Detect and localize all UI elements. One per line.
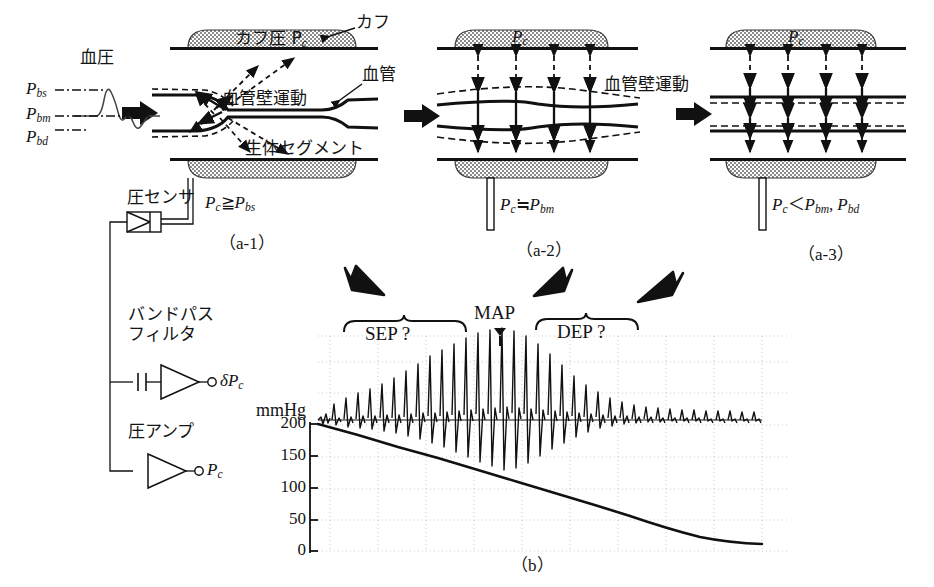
chart-b: [310, 328, 790, 553]
cuff-pressure-label-a3: Pc: [788, 28, 804, 47]
inflow-arrow-a1: [122, 101, 158, 125]
sensor-tube-a2: [487, 178, 494, 230]
callout-arrow-right: [638, 272, 683, 302]
vessel-upper-wall-a2: [437, 101, 638, 107]
vessel-wall-motion-label-a2: 血管壁運動: [604, 76, 689, 93]
ytick-label-100: 100: [268, 478, 306, 495]
callout-arrows: [345, 266, 683, 302]
cuff-pressure-label-a1: カフ圧 Pc: [235, 30, 307, 49]
vessel-lower-wall-a1: [152, 117, 378, 131]
p-bs-label: Pbs: [26, 80, 47, 99]
figure-vector-layer: [0, 0, 934, 587]
bandpass-output-terminal: [208, 378, 216, 386]
pressure-amp-label: 圧アンプ: [128, 423, 194, 440]
ytick-label-200: 200: [268, 414, 306, 431]
pressure-sensor-body: [127, 212, 161, 232]
p-bd-label: Pbd: [26, 128, 48, 147]
sep-brace-label: SEP ?: [365, 324, 410, 343]
chart-y-ticks: [310, 424, 318, 551]
ytick-label-50: 50: [268, 510, 306, 527]
pressure-sensor-label: 圧センサ: [127, 189, 195, 206]
cuff-pressure-label-a2: Pc: [512, 28, 528, 47]
cuff-bladder-lower-a3: [726, 160, 876, 178]
condition-a3: Pc＜Pbm,Pbd: [772, 196, 859, 215]
vessel-lower-wall-a2: [437, 124, 638, 130]
ytick-label-0: 0: [268, 541, 306, 558]
inflow-arrow-a2: [404, 104, 440, 128]
cuff-bladder-upper-a2: [455, 30, 608, 48]
motion-arrows-a3: [750, 56, 862, 152]
vessel-leader-a1: [340, 84, 362, 100]
caption-a3: （a-3）: [798, 246, 854, 263]
vessel-wall-motion-label-a1: 血管壁運動: [222, 90, 307, 107]
caption-a2: （a-2）: [516, 242, 572, 259]
inflow-arrow-a3: [676, 102, 712, 126]
dep-brace-label: DEP ?: [557, 322, 605, 341]
callout-arrow-left: [345, 266, 384, 295]
caption-b: （b）: [511, 557, 554, 574]
pressure-amp-triangle: [148, 454, 186, 488]
cuff-bladder-lower-a2: [455, 160, 608, 178]
p-bm-label: Pbm: [26, 105, 51, 124]
vessel-dashed-envelope-lower-a2: [437, 132, 640, 143]
delta-pc-output-label: δPc: [220, 372, 243, 391]
vessel-label-a1: 血管: [362, 66, 396, 83]
caption-a1: （a-1）: [219, 235, 275, 252]
pressure-output-terminal: [195, 467, 203, 475]
map-pointer: [494, 328, 506, 336]
map-label: MAP: [474, 303, 515, 322]
bandpass-filter-label-line1: バンドパス: [128, 306, 214, 323]
blood-pressure-label-a1: 血圧: [80, 49, 114, 66]
figure-root: カフ圧 Pc カフ 血圧 血管壁運動 血管 生体セグメント Pbs Pbm Pb…: [0, 0, 934, 587]
condition-a1: Pc≧Pbs: [205, 194, 255, 213]
cuff-label-a1: カフ: [356, 14, 390, 31]
oscillometric-waveform: [318, 328, 762, 470]
condition-a2: Pc≒Pbm: [500, 196, 554, 215]
callout-arrow-mid: [534, 268, 572, 296]
sensor-tube-a3: [759, 178, 766, 230]
bandpass-filter-label-line2: フィルタ: [128, 326, 196, 343]
bandpass-amp-triangle: [161, 365, 199, 399]
ytick-label-150: 150: [268, 446, 306, 463]
pc-output-label: Pc: [207, 461, 223, 480]
living-segment-label-a1: 生体セグメント: [245, 140, 364, 157]
cuff-bladder-lower-a1: [188, 160, 356, 178]
